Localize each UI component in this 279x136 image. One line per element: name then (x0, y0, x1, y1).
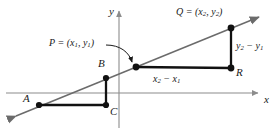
rise-minus: − (244, 40, 256, 51)
rise-second-subscript: 1 (260, 44, 263, 51)
rise-length-label: y2 − y1 (236, 41, 263, 51)
y-axis-label: y (109, 6, 114, 17)
p-close-paren: ) (91, 37, 94, 48)
x-axis-label: x (264, 94, 269, 105)
point-q-equation-label: Q = (x2, y2) (176, 7, 222, 17)
point-c-dot (103, 102, 109, 108)
point-r-label: R (236, 67, 243, 78)
point-a-label: A (23, 93, 30, 104)
point-b-dot (103, 75, 109, 81)
p-equals-open: = ( (55, 37, 70, 48)
point-p-equation-label: P = (x1, y1) (49, 38, 94, 48)
q-close-paren: ) (219, 6, 222, 17)
run-length-label: x2 − x1 (153, 74, 180, 84)
point-b-label: B (98, 58, 105, 69)
point-r-dot (228, 65, 235, 72)
run-second-subscript: 1 (177, 77, 180, 84)
triangle-abc-group (39, 78, 106, 105)
point-a-dot (36, 102, 42, 108)
point-p-dot (133, 64, 140, 71)
run-minus: − (161, 73, 173, 84)
point-c-label: C (110, 106, 117, 117)
segment-pr (136, 67, 231, 68)
point-q-dot (228, 25, 235, 32)
slope-diagram-figure: y x A B C R P = (x1, y1) Q = (x2, y2) x2… (0, 0, 279, 136)
q-equals-open: = ( (183, 6, 198, 17)
